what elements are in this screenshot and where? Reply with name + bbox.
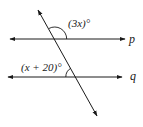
- line-label-p: p: [128, 32, 135, 46]
- parallel-lines-diagram: (3x)° (x + 20)° p q: [0, 0, 143, 127]
- diagram-svg: (3x)° (x + 20)° p q: [0, 0, 143, 127]
- angle-label-x-plus-20: (x + 20)°: [21, 61, 62, 74]
- angle-label-3x: (3x)°: [68, 17, 91, 30]
- angle-arc-x-plus-20: [66, 68, 71, 77]
- line-label-q: q: [130, 69, 136, 83]
- angle-arc-3x: [49, 27, 67, 39]
